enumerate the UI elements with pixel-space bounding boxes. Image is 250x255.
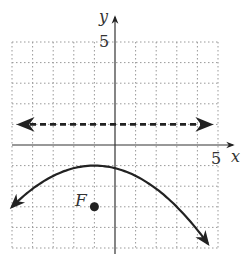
y-axis-label: y xyxy=(98,7,109,26)
focus-point xyxy=(90,202,99,211)
parabola-curve xyxy=(12,166,208,244)
focus-label: F xyxy=(74,190,88,210)
x-tick-label-5: 5 xyxy=(211,149,221,168)
y-tick-label-5: 5 xyxy=(99,32,109,51)
x-axis-label: x xyxy=(231,147,240,166)
parabola-graph: y 5 5 x F xyxy=(0,0,250,255)
